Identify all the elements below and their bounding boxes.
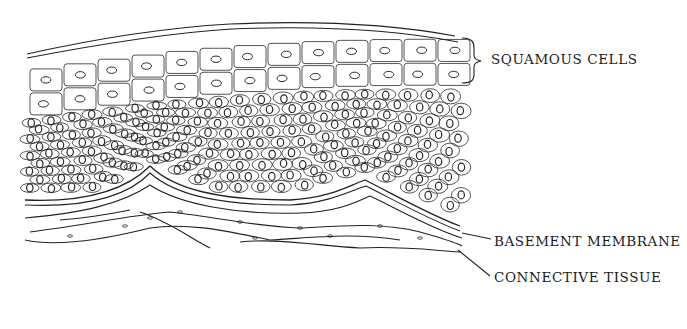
leader-connective bbox=[458, 250, 490, 276]
label-connective-tissue: CONNECTIVE TISSUE bbox=[494, 269, 661, 285]
leader-basement bbox=[462, 233, 491, 239]
bracket-squamous bbox=[462, 38, 481, 83]
label-squamous-cells: SQUAMOUS CELLS bbox=[491, 51, 638, 67]
leader-lines bbox=[458, 233, 491, 276]
label-basement-membrane: BASEMENT MEMBRANE bbox=[494, 233, 681, 249]
